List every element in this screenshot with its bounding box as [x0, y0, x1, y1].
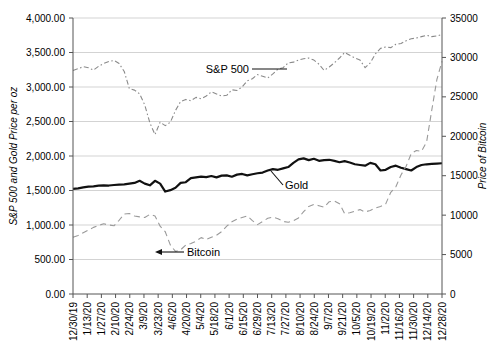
- x-axis-tick-label: 4/20/20: [181, 302, 192, 336]
- x-axis-tick-label: 6/1/20: [224, 302, 235, 330]
- x-axis-tick-label: 3/9/20: [138, 302, 149, 330]
- y-axis-right-tick-label: 30000: [450, 52, 478, 63]
- x-axis-tick-label: 12/28/20: [437, 302, 448, 341]
- y-axis-right-ticks: 05000100001500020000250003000035000: [442, 13, 478, 300]
- y-axis-left-tick-label: 1,000.00: [26, 220, 65, 231]
- y-axis-right-tick-label: 35000: [450, 13, 478, 24]
- y-axis-left-tick-label: 0.00: [46, 289, 66, 300]
- x-axis-tick-label: 6/29/20: [252, 302, 263, 336]
- x-axis-tick-label: 9/7/20: [323, 302, 334, 330]
- x-axis-tick-label: 6/15/20: [238, 302, 249, 336]
- x-axis-tick-label: 12/14/20: [422, 302, 433, 341]
- y-axis-right-tick-label: 15000: [450, 170, 478, 181]
- y-axis-right-tick-label: 10000: [450, 210, 478, 221]
- y-axis-left-tick-label: 500.00: [34, 254, 65, 265]
- line-chart: 0.00500.001,000.001,500.002,000.002,500.…: [0, 0, 497, 357]
- y-axis-right-tick-label: 0: [450, 289, 456, 300]
- y-axis-left-title: S&P 500 and Gold Price per oz: [8, 87, 19, 226]
- x-axis-tick-label: 10/19/20: [366, 302, 377, 341]
- series-label-sp500: S&P 500: [206, 63, 249, 75]
- x-axis-tick-label: 8/24/20: [309, 302, 320, 336]
- chart-container: 0.00500.001,000.001,500.002,000.002,500.…: [0, 0, 497, 357]
- y-axis-left-tick-label: 1,500.00: [26, 185, 65, 196]
- x-axis-tick-label: 2/24/20: [124, 302, 135, 336]
- x-axis-tick-label: 1/13/20: [82, 302, 93, 336]
- x-axis-tick-label: 2/10/20: [110, 302, 121, 336]
- y-axis-left-tick-label: 3,500.00: [26, 47, 65, 58]
- y-axis-right-title: Price of Bitcoin: [477, 122, 488, 189]
- x-axis-tick-label: 5/18/20: [209, 302, 220, 336]
- y-axis-right-tick-label: 20000: [450, 131, 478, 142]
- y-axis-left-tick-label: 2,500.00: [26, 116, 65, 127]
- series-label-bitcoin: Bitcoin: [187, 246, 220, 258]
- x-axis-tick-label: 9/21/20: [337, 302, 348, 336]
- x-axis-tick-label: 3/23/20: [153, 302, 164, 336]
- x-axis-tick-label: 10/5/20: [351, 302, 362, 336]
- x-axis-tick-label: 7/13/20: [266, 302, 277, 336]
- y-axis-left-ticks: 0.00500.001,000.001,500.002,000.002,500.…: [26, 13, 73, 300]
- x-axis-tick-label: 4/6/20: [167, 302, 178, 330]
- y-axis-left-tick-label: 3,000.00: [26, 82, 65, 93]
- y-axis-right-tick-label: 25000: [450, 91, 478, 102]
- y-axis-left-tick-label: 2,000.00: [26, 151, 65, 162]
- x-axis-tick-label: 11/16/20: [394, 302, 405, 341]
- x-axis-tick-label: 11/2/20: [380, 302, 391, 335]
- x-axis-ticks: 12/30/191/13/201/27/202/10/202/24/203/9/…: [68, 294, 448, 341]
- y-axis-right-tick-label: 5000: [450, 249, 473, 260]
- x-axis-tick-label: 8/10/20: [295, 302, 306, 336]
- x-axis-tick-label: 5/4/20: [195, 302, 206, 330]
- x-axis-tick-label: 11/30/20: [408, 302, 419, 341]
- x-axis-tick-label: 12/30/19: [68, 302, 79, 341]
- x-axis-tick-label: 7/27/20: [280, 302, 291, 336]
- y-axis-left-tick-label: 4,000.00: [26, 13, 65, 24]
- x-axis-tick-label: 1/27/20: [96, 302, 107, 336]
- series-label-gold: Gold: [285, 179, 308, 191]
